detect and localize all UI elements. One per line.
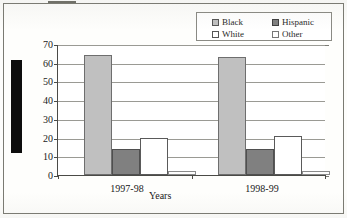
legend-swatch-black-icon xyxy=(212,19,219,26)
x-tick-label-1998-99: 1998-99 xyxy=(232,183,292,195)
x-axis-tick-start xyxy=(58,175,59,179)
right-tick-70 xyxy=(325,45,329,46)
bar-1997-98-other xyxy=(168,171,196,175)
x-axis-tick-mid xyxy=(192,175,193,179)
y-axis-tick-10 xyxy=(54,157,58,158)
gridline-70 xyxy=(58,45,325,46)
y-tick-label-40: 40 xyxy=(43,96,53,106)
y-axis-tick-70 xyxy=(54,45,58,46)
legend-label-black: Black xyxy=(222,18,243,27)
bar-chart: 70 60 50 40 30 20 10 0 xyxy=(3,3,344,214)
legend-label-other: Other xyxy=(282,30,303,39)
y-tick-label-70: 70 xyxy=(43,40,53,50)
legend-label-hispanic: Hispanic xyxy=(282,18,314,27)
y-tick-label-10: 10 xyxy=(43,152,53,162)
y-tick-label-30: 30 xyxy=(43,115,53,125)
legend-item-hispanic: Hispanic xyxy=(272,18,314,27)
y-tick-label-20: 20 xyxy=(43,134,53,144)
bar-1998-99-other xyxy=(302,171,330,175)
bar-1998-99-black xyxy=(218,57,246,175)
x-tick-label-1997-98: 1997-98 xyxy=(97,183,157,195)
x-axis-tick-end xyxy=(325,175,326,179)
y-axis-tick-20 xyxy=(54,139,58,140)
y-axis-labels: 70 60 50 40 30 20 10 0 xyxy=(21,45,53,176)
y-tick-label-0: 0 xyxy=(48,171,53,181)
bar-1998-99-white xyxy=(274,136,302,175)
plot-area xyxy=(57,45,325,176)
legend-swatch-other-icon xyxy=(272,31,279,38)
bar-1997-98-black xyxy=(84,55,112,175)
bar-1997-98-hispanic xyxy=(112,149,140,175)
x-axis-title: Years xyxy=(149,190,171,202)
bar-1997-98-white xyxy=(140,138,168,175)
bar-1998-99-hispanic xyxy=(246,149,274,175)
legend-swatch-white-icon xyxy=(212,31,219,38)
legend-item-other: Other xyxy=(272,30,303,39)
legend-item-black: Black xyxy=(212,18,243,27)
chart-legend: Black Hispanic White Other xyxy=(196,12,332,41)
y-tick-label-60: 60 xyxy=(43,59,53,69)
legend-label-white: White xyxy=(222,30,244,39)
scanned-page: 70 60 50 40 30 20 10 0 xyxy=(0,0,347,218)
y-axis-tick-60 xyxy=(54,64,58,65)
x-axis-labels: 1997-98 1998-99 xyxy=(57,183,325,199)
legend-swatch-hispanic-icon xyxy=(272,19,279,26)
legend-item-white: White xyxy=(212,30,244,39)
y-axis-tick-50 xyxy=(54,82,58,83)
y-axis-tick-30 xyxy=(54,120,58,121)
y-tick-label-50: 50 xyxy=(43,77,53,87)
y-axis-tick-40 xyxy=(54,101,58,102)
